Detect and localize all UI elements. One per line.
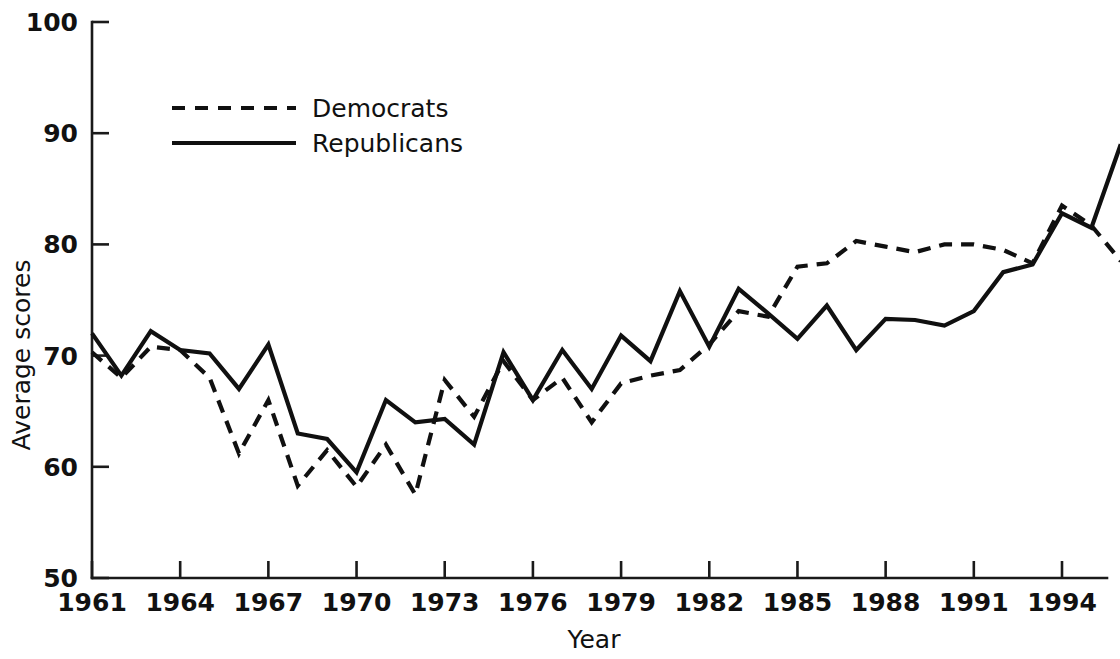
y-tick-label: 60 (43, 453, 78, 482)
x-tick-label: 1991 (939, 588, 1009, 617)
x-axis-ticks: 1961196419671970197319761979198219851988… (57, 561, 1097, 617)
x-tick-label: 1970 (322, 588, 392, 617)
x-tick-label: 1976 (498, 588, 568, 617)
x-tick-label: 1979 (586, 588, 656, 617)
y-axis-ticks: 5060708090100 (26, 8, 109, 593)
y-tick-label: 80 (43, 230, 78, 259)
x-tick-label: 1961 (57, 588, 127, 617)
chart-legend: DemocratsRepublicans (172, 94, 463, 158)
x-tick-label: 1988 (851, 588, 921, 617)
series-line-democrats (92, 205, 1120, 494)
x-tick-label: 1973 (410, 588, 480, 617)
chart-axes (92, 22, 1107, 578)
x-tick-label: 1967 (234, 588, 304, 617)
x-tick-label: 1964 (145, 588, 215, 617)
chart-series-group (92, 144, 1120, 494)
x-axis-title: Year (567, 625, 622, 654)
line-chart: 5060708090100 19611964196719701973197619… (0, 0, 1120, 659)
y-tick-label: 70 (43, 342, 78, 371)
legend-label-republicans: Republicans (312, 129, 463, 158)
x-tick-label: 1994 (1027, 588, 1097, 617)
y-tick-label: 100 (26, 8, 78, 37)
y-tick-label: 90 (43, 119, 78, 148)
x-tick-label: 1982 (674, 588, 744, 617)
chart-figure: 5060708090100 19611964196719701973197619… (0, 0, 1120, 659)
series-line-republicans (92, 144, 1120, 472)
y-axis-title: Average scores (7, 260, 36, 451)
x-tick-label: 1985 (763, 588, 833, 617)
legend-label-democrats: Democrats (312, 94, 448, 123)
